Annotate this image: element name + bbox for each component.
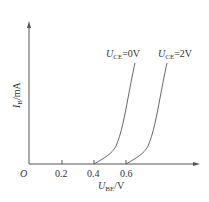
curve-label-uce-0v: UCE=0V [106, 48, 141, 61]
iv-characteristic-chart: O 0.2 0.4 0.6 UBE/V IB/mA UCE=0V UCE=2V [0, 0, 209, 202]
curve-uce-0v [94, 63, 135, 164]
x-tick-label: 0.4 [87, 168, 100, 179]
x-axis-arrow-icon [193, 162, 200, 166]
x-axis-title-sub: BE [105, 185, 114, 193]
y-axis-arrow-icon [27, 21, 31, 28]
x-axis-title-unit: /V [114, 180, 125, 191]
curve-label-uce-2v: UCE=2V [158, 48, 193, 61]
x-tick-label: 0.2 [55, 168, 68, 179]
y-axis-title: IB/mA [11, 81, 24, 109]
x-axis-title: UBE/V [98, 180, 125, 193]
origin-label: O [20, 168, 27, 179]
y-axis [27, 21, 31, 164]
x-tick-label: 0.6 [120, 168, 133, 179]
x-axis [29, 160, 200, 166]
y-axis-title-unit: /mA [11, 81, 22, 100]
